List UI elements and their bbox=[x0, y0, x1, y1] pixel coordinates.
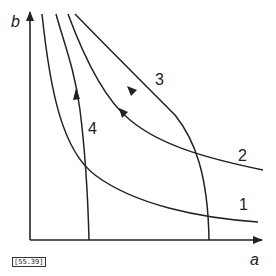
arrow-icon-curve-3 bbox=[127, 86, 137, 96]
curve-4-label: 4 bbox=[88, 121, 97, 137]
phase-diagram bbox=[0, 0, 276, 276]
curve-3-label: 3 bbox=[155, 72, 164, 88]
curve-2-label: 2 bbox=[238, 148, 247, 164]
curve-4 bbox=[56, 14, 89, 240]
x-axis-label: a bbox=[250, 252, 259, 268]
curve-1 bbox=[42, 14, 258, 222]
y-axis-label: b bbox=[11, 14, 20, 30]
arrow-icon-curve-4 bbox=[73, 88, 80, 100]
curve-1-label: 1 bbox=[239, 197, 248, 213]
figure-code: [55.39] bbox=[12, 257, 46, 267]
